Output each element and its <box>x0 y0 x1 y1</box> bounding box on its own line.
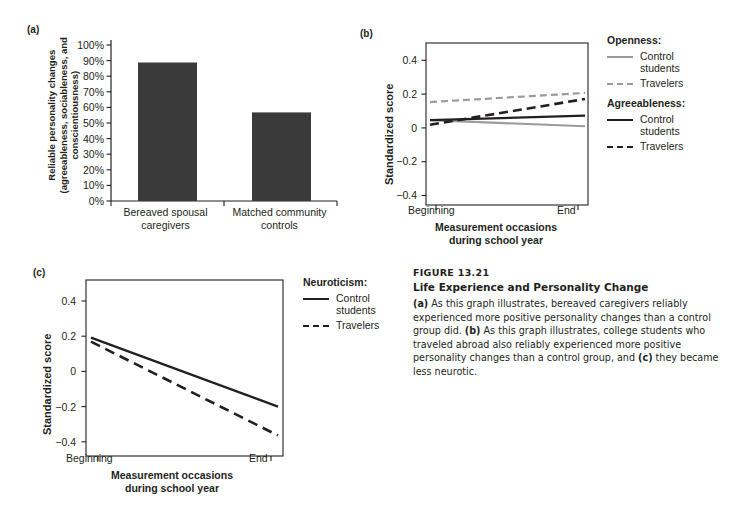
panel-b-legend-heading-openness: Openness: <box>607 34 742 46</box>
legend-line-solid-dark-icon <box>303 293 329 305</box>
panel-b-legend-label-agreeableness-control: Control students <box>640 113 680 137</box>
panel-a-ytick-100: 100% <box>77 40 104 50</box>
panel-a-ytick-50: 50% <box>83 118 104 128</box>
panel-c-xtick-marks <box>98 456 271 461</box>
panel-a-letter: (a) <box>27 24 39 35</box>
panel-b-ytick--0.4: −0.4 <box>396 190 417 200</box>
panel-c-legend-label-neuroticism-travelers: Travelers <box>336 319 379 331</box>
panel-b-ytick-labels: 0.4 0.2 0 −0.2 −0.4 <box>369 44 417 214</box>
bar-matched-community-controls <box>252 112 311 201</box>
figure-number: FIGURE 13.21 <box>413 267 731 278</box>
panel-a-cat0-line2: caregivers <box>141 219 189 231</box>
panel-b-legend-label-openness-travelers: Travelers <box>640 77 683 89</box>
panel-b-ytick-0: 0 <box>411 123 417 133</box>
panel-a-ytick-0: 0% <box>89 196 104 206</box>
panel-a-ytick-10: 10% <box>83 180 104 190</box>
panel-c-ytick-marks <box>82 301 87 442</box>
panel-b-letter: (b) <box>360 28 373 39</box>
panel-c-xtick-beginning: Beginning <box>66 453 113 464</box>
panel-a-ytick-20: 20% <box>83 165 104 175</box>
panel-c-plot-frame <box>86 280 283 456</box>
panel-b-legend-item-openness-travelers: Travelers <box>607 77 742 90</box>
panel-a-cat1-line1: Matched community <box>233 206 327 218</box>
panel-b-xtick-end: End <box>557 205 576 216</box>
panel-a-category-label-0: Bereaved spousal caregivers <box>108 206 223 231</box>
panel-a-ylabel-line1: Reliable personality changes <box>46 50 57 181</box>
panel-a-cat1-line2: controls <box>261 219 298 231</box>
legend-line-dashed-dark-icon <box>607 141 633 153</box>
line-agreeableness-control-students <box>430 116 585 121</box>
legend-line-dashed-dark-icon <box>303 320 329 332</box>
panel-b-legend-heading-agreeableness: Agreeableness: <box>607 97 742 109</box>
panel-b-xlabel: Measurement occasions during school year <box>401 221 591 247</box>
panel-b-legend-item-agreeableness-control: Control students <box>607 113 742 137</box>
panel-c-ytick-0.2: 0.2 <box>61 331 76 341</box>
panel-c-xlabel-line1: Measurement occasions <box>111 469 233 481</box>
panel-b-plot <box>418 40 593 220</box>
legend-line-dashed-light-icon <box>607 78 633 90</box>
panel-a-ytick-90: 90% <box>83 56 104 66</box>
panel-a-ytick-30: 30% <box>83 149 104 159</box>
line-openness-control-students <box>430 120 585 126</box>
panel-a-ytick-labels: 100% 90% 80% 70% 60% 50% 40% 30% 20% 10%… <box>64 40 104 220</box>
panel-b-ytick-0.4: 0.4 <box>402 55 417 65</box>
caption-tag-a: (a) <box>413 298 428 309</box>
line-openness-travelers <box>430 93 585 102</box>
panel-c-xtick-end: End <box>249 453 268 464</box>
figure-title: Life Experience and Personality Change <box>413 281 731 293</box>
panel-b-legend-item-agreeableness-travelers: Travelers <box>607 140 742 153</box>
panel-c-ytick-0: 0 <box>70 366 76 376</box>
panel-a-ytick-40: 40% <box>83 134 104 144</box>
panel-c-ytick-labels: 0.4 0.2 0 −0.2 −0.4 <box>26 283 76 458</box>
panel-b-xtick-beginning: Beginning <box>408 205 455 216</box>
panel-c-xlabel-line2: during school year <box>125 482 219 494</box>
legend-line-solid-light-icon <box>607 51 633 63</box>
panel-b: (b) Standardized score 0.4 0.2 0 −0.2 −0… <box>355 0 745 255</box>
figure-caption-body: (a) As this graph illustrates, bereaved … <box>413 297 731 379</box>
panel-b-legend: Openness: Control students Travelers Agr… <box>607 34 742 156</box>
panel-c-legend: Neuroticism: Control students Travelers <box>303 276 413 335</box>
panel-c-ytick--0.4: −0.4 <box>55 437 76 447</box>
caption-tag-b: (b) <box>465 325 481 336</box>
panel-c-legend-item-neuroticism-control: Control students <box>303 292 413 316</box>
panel-b-legend-label-openness-control: Control students <box>640 50 680 74</box>
panel-a-ytick-70: 70% <box>83 87 104 97</box>
bar-bereaved-spousal-caregivers <box>138 63 197 202</box>
panel-c-ytick-0.4: 0.4 <box>61 296 76 306</box>
figure-caption: FIGURE 13.21 Life Experience and Persona… <box>413 267 731 379</box>
panel-c-letter: (c) <box>33 267 45 278</box>
panel-b-ytick-marks <box>422 60 427 195</box>
line-neuroticism-control-students <box>91 338 278 407</box>
panel-a-plot <box>105 40 345 220</box>
panel-c-legend-label-neuroticism-control: Control students <box>336 292 376 316</box>
panel-a-category-label-1: Matched community controls <box>222 206 337 231</box>
panel-a-tickmarks <box>107 45 112 201</box>
panel-c: (c) Standardized score 0.4 0.2 0 −0.2 −0… <box>0 255 410 508</box>
panel-c-xlabel: Measurement occasions during school year <box>72 469 272 495</box>
panel-c-plot <box>78 277 293 467</box>
panel-a-cat0-line1: Bereaved spousal <box>123 206 207 218</box>
caption-tag-c: (c) <box>638 352 652 363</box>
line-agreeableness-travelers <box>430 99 585 125</box>
panel-b-legend-item-openness-control: Control students <box>607 50 742 74</box>
panel-a-ytick-60: 60% <box>83 102 104 112</box>
panel-a-ytick-80: 80% <box>83 71 104 81</box>
panel-b-ytick--0.2: −0.2 <box>396 156 417 166</box>
panel-b-legend-label-agreeableness-travelers: Travelers <box>640 140 683 152</box>
panel-c-legend-item-neuroticism-travelers: Travelers <box>303 319 413 332</box>
panel-b-ytick-0.2: 0.2 <box>402 89 417 99</box>
panel-a: (a) Reliable personality changes (agreea… <box>0 0 360 250</box>
line-neuroticism-travelers <box>91 342 278 436</box>
panel-b-xlabel-line1: Measurement occasions <box>435 221 557 233</box>
legend-line-solid-dark-icon <box>607 114 633 126</box>
panel-b-xlabel-line2: during school year <box>449 234 543 246</box>
panel-c-ytick--0.2: −0.2 <box>55 402 76 412</box>
panel-c-legend-heading-neuroticism: Neuroticism: <box>303 276 413 288</box>
